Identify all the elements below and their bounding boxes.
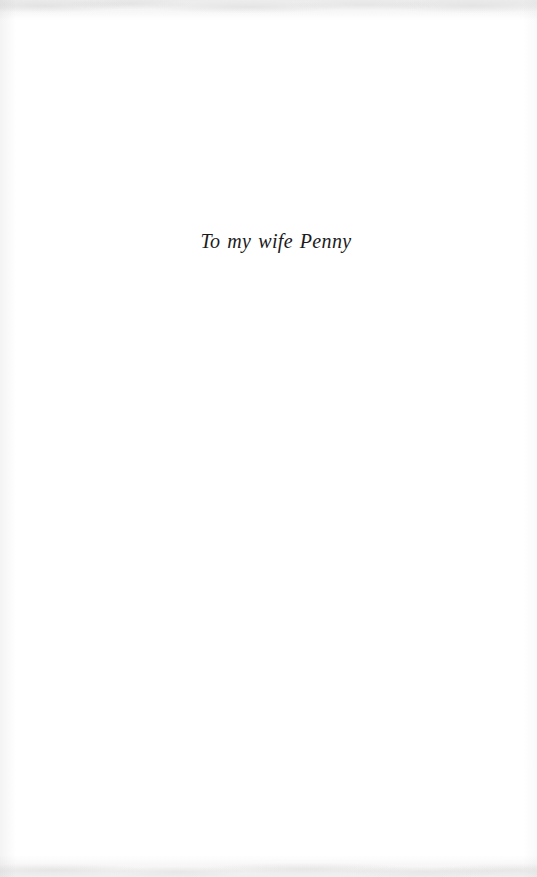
- scan-artifact-left-edge: [0, 0, 22, 877]
- scan-artifact-bottom-edge: [0, 847, 537, 877]
- scan-artifact-right-edge: [519, 0, 537, 877]
- dedication-block: To my wife Penny: [0, 228, 537, 254]
- dedication-text: To my wife Penny: [200, 228, 351, 254]
- scan-artifact-top-edge: [0, 0, 537, 26]
- dedication-page: To my wife Penny: [0, 0, 537, 877]
